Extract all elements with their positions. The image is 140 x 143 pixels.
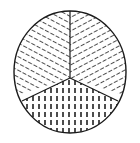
circle-sector-diagram: [0, 0, 140, 143]
figure-container: [0, 0, 140, 143]
